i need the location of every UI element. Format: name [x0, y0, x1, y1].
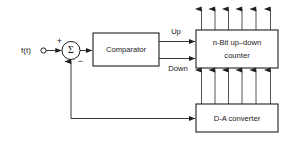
comparator-label: Comparator	[106, 45, 147, 54]
signal-up-group: Up	[159, 27, 195, 42]
sigma-symbol: Σ	[68, 44, 74, 55]
source-label: f(t)	[21, 46, 31, 55]
counter-label-line2: counter	[224, 51, 250, 60]
counter-box	[196, 30, 278, 68]
summing-junction-group: Σ + −	[57, 36, 83, 66]
dac-label: D-A converter	[214, 114, 261, 123]
counter-output-bus	[202, 9, 271, 30]
block-comparator: Comparator	[93, 33, 159, 66]
minus-sign-label: −	[78, 56, 83, 66]
signal-down-group: Down	[159, 59, 195, 74]
down-label: Down	[168, 64, 187, 73]
block-diagram-svg: f(t) Σ + − Comparator Up Down	[0, 0, 284, 144]
block-dac: D-A converter	[196, 104, 278, 132]
counter-label-line1: n-Bit up–down	[213, 38, 262, 47]
block-diagram-canvas: f(t) Σ + − Comparator Up Down	[0, 0, 284, 144]
dac-input-bus	[202, 70, 271, 104]
block-counter: n-Bit up–down counter	[196, 30, 278, 68]
up-label: Up	[171, 27, 181, 36]
source-terminal-group: f(t)	[21, 46, 61, 55]
source-terminal-circle	[41, 48, 46, 53]
plus-sign-label: +	[57, 36, 62, 46]
